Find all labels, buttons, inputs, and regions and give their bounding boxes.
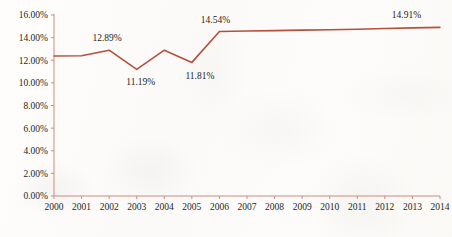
data-point-label: 14.91% bbox=[392, 10, 421, 20]
x-axis-tick-label: 2002 bbox=[100, 202, 119, 212]
data-point-label: 14.54% bbox=[201, 15, 230, 25]
y-axis-tick-label: 8.00% bbox=[23, 101, 48, 111]
x-axis-tick-label: 2010 bbox=[320, 202, 339, 212]
x-axis-tick-label: 2012 bbox=[375, 202, 394, 212]
data-point-label: 12.89% bbox=[92, 33, 121, 43]
data-point-label: 11.81% bbox=[185, 71, 214, 81]
x-axis-tick-label: 2001 bbox=[72, 202, 91, 212]
x-axis: 2000200120022003200420052006200720082009… bbox=[45, 196, 450, 212]
x-axis-tick-label: 2011 bbox=[348, 202, 367, 212]
x-axis-tick-label: 2000 bbox=[45, 202, 64, 212]
data-label-group: 12.89%11.19%11.81%14.54%14.91% bbox=[92, 10, 421, 87]
y-axis-tick-label: 0.00% bbox=[23, 191, 48, 201]
y-axis-tick-label: 6.00% bbox=[23, 124, 48, 134]
x-axis-tick-label: 2009 bbox=[293, 202, 312, 212]
y-axis-tick-label: 12.00% bbox=[19, 56, 48, 66]
x-axis-tick-label: 2008 bbox=[265, 202, 284, 212]
x-axis-tick-label: 2007 bbox=[238, 202, 257, 212]
y-axis-tick-label: 14.00% bbox=[19, 33, 48, 43]
x-axis-tick-label: 2013 bbox=[403, 202, 422, 212]
x-axis-tick-label: 2004 bbox=[155, 202, 174, 212]
x-axis-tick-label: 2005 bbox=[182, 202, 201, 212]
y-axis-tick-label: 4.00% bbox=[23, 146, 48, 156]
line-chart: 0.00%2.00%4.00%6.00%8.00%10.00%12.00%14.… bbox=[0, 0, 452, 237]
y-axis-tick-label: 16.00% bbox=[19, 10, 48, 20]
y-axis: 0.00%2.00%4.00%6.00%8.00%10.00%12.00%14.… bbox=[19, 10, 54, 201]
chart-canvas: 0.00%2.00%4.00%6.00%8.00%10.00%12.00%14.… bbox=[0, 0, 452, 237]
y-axis-tick-label: 10.00% bbox=[19, 78, 48, 88]
x-axis-tick-label: 2014 bbox=[431, 202, 450, 212]
data-point-label: 11.19% bbox=[126, 77, 155, 87]
y-axis-tick-label: 2.00% bbox=[23, 169, 48, 179]
x-axis-tick-label: 2003 bbox=[127, 202, 146, 212]
x-axis-tick-label: 2006 bbox=[210, 202, 229, 212]
